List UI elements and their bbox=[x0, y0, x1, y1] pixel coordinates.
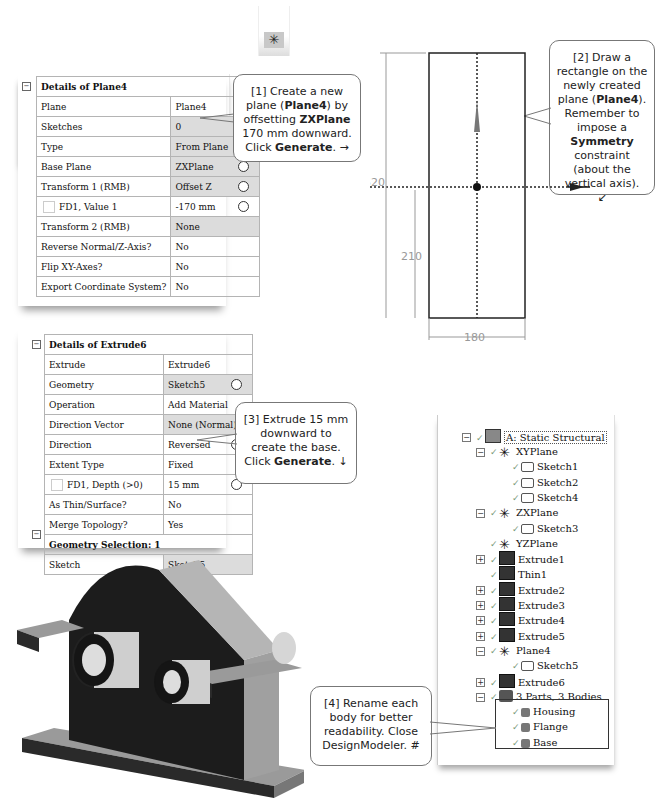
tree-expander-root[interactable]: − bbox=[462, 433, 471, 442]
tree-expander[interactable]: + bbox=[476, 678, 485, 687]
tree-item-sketch5[interactable]: ✓Sketch5 bbox=[512, 658, 578, 673]
callout-step-4: [4] Rename each body for better readabil… bbox=[310, 686, 432, 766]
plane-icon: ✳ bbox=[499, 537, 513, 549]
tree-item-sketch1[interactable]: ✓Sketch1 bbox=[512, 459, 578, 474]
property-value[interactable]: No bbox=[171, 237, 260, 257]
property-row: Flip XY-Axes?No bbox=[37, 257, 260, 277]
svg-text:210: 210 bbox=[401, 250, 422, 263]
plane-icon: ✳ bbox=[499, 644, 513, 656]
collapse-plane-details[interactable]: − bbox=[22, 82, 31, 91]
tree-item-extrude2[interactable]: ✓Extrude2 bbox=[490, 582, 565, 597]
tree-expander[interactable]: − bbox=[476, 509, 485, 518]
property-label: Reverse Normal/Z-Axis? bbox=[37, 237, 171, 257]
tree-expander[interactable]: + bbox=[476, 616, 485, 625]
tree-item-extrude3[interactable]: ✓Extrude3 bbox=[490, 597, 565, 612]
extrude-icon bbox=[499, 612, 515, 626]
tree-item-sketch2[interactable]: ✓Sketch2 bbox=[512, 475, 578, 490]
callout-1-pointer bbox=[200, 112, 236, 132]
callout-3-pointer bbox=[195, 432, 239, 448]
sketch-icon bbox=[521, 493, 534, 503]
svg-text:520: 520 bbox=[370, 176, 385, 189]
property-value[interactable]: No bbox=[171, 257, 260, 277]
extrude-icon bbox=[499, 582, 515, 596]
property-row: GeometrySketch5 bbox=[45, 375, 253, 395]
check-icon: ✓ bbox=[512, 491, 520, 506]
property-value[interactable]: Extrude6 bbox=[164, 355, 253, 375]
plane-details-container: − Details of Plane4 PlanePlane4Sketches0… bbox=[24, 76, 260, 297]
tree-expander[interactable]: + bbox=[476, 601, 485, 610]
extrude-details-table: Details of Extrude6 ExtrudeExtrude6Geome… bbox=[44, 334, 253, 575]
radio-indicator-icon bbox=[238, 181, 249, 192]
property-label: Extrude bbox=[45, 355, 164, 375]
callout-4-pointer bbox=[430, 718, 498, 738]
property-label: FD1, Value 1 bbox=[37, 197, 171, 217]
tree-expander[interactable]: + bbox=[476, 555, 485, 564]
new-plane-icon[interactable]: ✳ bbox=[264, 32, 284, 48]
extrude-icon bbox=[499, 628, 515, 642]
property-label: Export Coordinate System? bbox=[37, 277, 171, 297]
tree-item-sketch4[interactable]: ✓Sketch4 bbox=[512, 490, 578, 505]
radio-indicator-icon bbox=[231, 379, 242, 390]
property-label: As Thin/Surface? bbox=[45, 495, 164, 515]
tree-expander[interactable]: − bbox=[476, 647, 485, 656]
collapse-geometry-selection[interactable]: − bbox=[32, 530, 41, 539]
property-label: Operation bbox=[45, 395, 164, 415]
property-row: Export Coordinate System?No bbox=[37, 277, 260, 297]
property-label: Transform 1 (RMB) bbox=[37, 177, 171, 197]
property-row: OperationAdd Material bbox=[45, 395, 253, 415]
check-icon: ✓ bbox=[512, 659, 520, 674]
tree-item-plane4[interactable]: ✓✳Plane4 bbox=[490, 643, 551, 658]
check-icon: ✓ bbox=[490, 506, 498, 521]
property-label: FD1, Depth (>0) bbox=[45, 475, 164, 495]
property-label: Sketches bbox=[37, 117, 171, 137]
tree-item-extrude4[interactable]: ✓Extrude4 bbox=[490, 612, 565, 627]
plane-details-title: Details of Plane4 bbox=[37, 77, 260, 97]
tree-item-thin1[interactable]: ✓Thin1 bbox=[490, 566, 547, 581]
tree-item-xyplane[interactable]: ✓✳XYPlane bbox=[490, 444, 558, 459]
property-row: ExtrudeExtrude6 bbox=[45, 355, 253, 375]
svg-text:180: 180 bbox=[464, 331, 485, 344]
tree-item-root[interactable]: ✓A: Static Structural bbox=[476, 429, 607, 444]
property-value[interactable]: No bbox=[164, 495, 253, 515]
sketch-icon bbox=[521, 524, 534, 534]
check-icon: ✓ bbox=[490, 537, 498, 552]
static-structural-icon bbox=[485, 429, 501, 443]
check-icon: ✓ bbox=[512, 522, 520, 537]
property-label: Transform 2 (RMB) bbox=[37, 217, 171, 237]
check-icon: ✓ bbox=[490, 644, 498, 659]
property-label: Direction bbox=[45, 435, 164, 455]
property-value[interactable]: Yes bbox=[164, 515, 253, 535]
plane-icon: ✳ bbox=[499, 506, 513, 518]
parameter-checkbox[interactable] bbox=[43, 201, 55, 213]
property-row: Base PlaneZXPlane bbox=[37, 157, 260, 177]
property-row: Transform 1 (RMB)Offset Z bbox=[37, 177, 260, 197]
radio-indicator-icon bbox=[238, 161, 249, 172]
sketch-icon bbox=[521, 478, 534, 488]
tree-expander[interactable]: − bbox=[476, 448, 485, 457]
tree-expander[interactable]: + bbox=[476, 632, 485, 641]
property-value[interactable]: No bbox=[171, 277, 260, 297]
collapse-extrude-details[interactable]: − bbox=[32, 340, 41, 349]
sketch-width-dimension: 180 bbox=[420, 318, 540, 348]
tree-item-extrude6[interactable]: ✓Extrude6 bbox=[490, 674, 565, 689]
tree-item-sketch3[interactable]: ✓Sketch3 bbox=[512, 521, 578, 536]
property-value[interactable]: Sketch5 bbox=[164, 375, 253, 395]
tree-item-extrude5[interactable]: ✓Extrude5 bbox=[490, 628, 565, 643]
property-label: Plane bbox=[37, 97, 171, 117]
extrude-details-title: Details of Extrude6 bbox=[45, 335, 253, 355]
property-value[interactable]: Offset Z bbox=[171, 177, 260, 197]
tree-item-yzplane[interactable]: ✓✳YZPlane bbox=[490, 536, 558, 551]
toolbar-button-frame: ✳ bbox=[258, 6, 290, 56]
parameter-checkbox[interactable] bbox=[51, 479, 63, 491]
property-label: Type bbox=[37, 137, 171, 157]
extrude-icon bbox=[499, 674, 515, 688]
tree-expander[interactable]: − bbox=[476, 693, 485, 702]
property-value[interactable]: -170 mm bbox=[171, 197, 260, 217]
sketch-canvas: 520 210 bbox=[370, 40, 600, 320]
tree-item-extrude1[interactable]: ✓Extrude1 bbox=[490, 551, 565, 566]
property-row: As Thin/Surface?No bbox=[45, 495, 253, 515]
tree-expander[interactable]: + bbox=[476, 586, 485, 595]
property-value[interactable]: None bbox=[171, 217, 260, 237]
tree-item-zxplane[interactable]: ✓✳ZXPlane bbox=[490, 505, 558, 520]
property-label: Base Plane bbox=[37, 157, 171, 177]
